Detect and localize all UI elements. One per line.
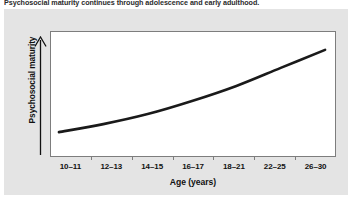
x-axis-tick [213,157,214,160]
chart-panel: Psychosocial maturity 10–1112–1314–1516–… [4,9,348,195]
up-arrow-icon [34,33,47,155]
plot-area [50,31,336,157]
x-tick-label: 14–15 [132,160,173,174]
x-tick-label: 16–17 [173,160,214,174]
maturity-curve [51,32,335,156]
x-tick-label: 22–25 [254,160,295,174]
x-axis-tick [254,157,255,160]
x-axis-tick-labels: 10–1112–1314–1516–1718–2122–2526–30 [50,160,336,174]
x-axis-tick [295,157,296,160]
y-axis-group: Psychosocial maturity [12,31,50,157]
x-axis-label: Age (years) [50,177,336,187]
x-tick-label: 26–30 [295,160,336,174]
x-axis-tick [91,157,92,160]
x-tick-label: 10–11 [50,160,91,174]
x-axis-tick [173,157,174,160]
figure-caption: Psychosocial maturity continues through … [4,0,348,9]
x-axis-tick [132,157,133,160]
x-tick-label: 12–13 [91,160,132,174]
x-tick-label: 18–21 [213,160,254,174]
figure-container: Psychosocial maturity continues through … [0,0,352,199]
